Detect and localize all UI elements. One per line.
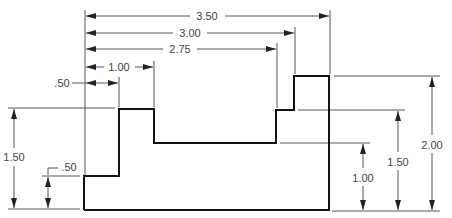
dimension-0-50-left: .50: [48, 161, 77, 208]
dim-label-0-50-left: .50: [61, 161, 76, 173]
dim-label-1-00-right: 1.00: [352, 172, 373, 184]
dimension-1-00-top: 1.00: [86, 61, 153, 73]
dimension-1-00-right: 1.00: [352, 144, 373, 210]
dim-label-1-50-left: 1.50: [3, 151, 24, 163]
extension-lines: [8, 10, 440, 211]
dim-label-0-50-top: .50: [54, 77, 69, 89]
dimension-3-50: 3.50: [86, 10, 329, 22]
dimension-1-50-left: 1.50: [3, 109, 24, 208]
dim-label-1-00-top: 1.00: [108, 61, 129, 73]
dim-label-2-75: 2.75: [169, 43, 190, 55]
dim-label-1-50-right: 1.50: [387, 156, 408, 168]
dimension-1-50-right: 1.50: [387, 111, 408, 210]
dim-label-3-00: 3.00: [179, 27, 200, 39]
technical-drawing: 3.50 3.00 2.75 1.00 .50 1.50 .50 1.00: [0, 0, 452, 218]
dim-label-2-00-right: 2.00: [421, 139, 442, 151]
dimension-2-75: 2.75: [86, 43, 276, 55]
dimension-3-00: 3.00: [86, 27, 294, 39]
dimension-0-50-top: .50: [54, 77, 118, 89]
dimension-2-00-right: 2.00: [421, 77, 442, 210]
dim-label-3-50: 3.50: [196, 10, 217, 22]
